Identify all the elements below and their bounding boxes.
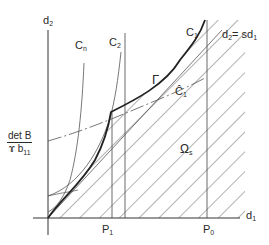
line-d2-sd1-label: d2= sd1 — [222, 29, 257, 41]
curve-cn-label: Cn — [75, 40, 87, 52]
point-p0-label: P0 — [203, 224, 214, 236]
curve-c2-label: C2 — [109, 37, 121, 49]
y-intercept-label: det B ɤ b11 — [7, 131, 32, 156]
curve-c1-hat-label: Ĉ1 — [175, 86, 187, 98]
x-axis-label: d1 — [246, 210, 256, 222]
region-omega-s-label: Ωs — [180, 143, 192, 156]
y-intercept-numerator: det B — [7, 131, 32, 143]
curve-c1-label: C1 — [186, 27, 198, 39]
y-intercept-denominator: ɤ b11 — [7, 143, 32, 156]
point-p1-label: P1 — [102, 224, 113, 236]
y-axis-label: d2 — [43, 15, 53, 27]
curve-gamma-label: Γ — [152, 73, 159, 86]
